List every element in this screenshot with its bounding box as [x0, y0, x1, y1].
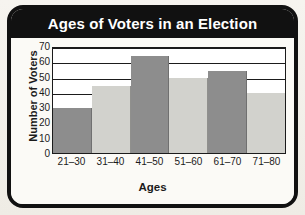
chart-card: Ages of Voters in an Election Number of … [7, 5, 298, 208]
x-axis-tick-label: 31–40 [91, 156, 130, 167]
y-axis-tick-label: 70 [39, 42, 50, 52]
y-axis-tick-label: 30 [39, 103, 50, 113]
bar [247, 93, 285, 153]
x-axis-tick-label: 61–70 [208, 156, 247, 167]
chart-title: Ages of Voters in an Election [48, 15, 257, 32]
y-axis-tick-label: 10 [39, 134, 50, 144]
y-axis-tick-label: 60 [39, 57, 50, 67]
bar-series [53, 48, 285, 153]
x-axis-tick-label: 71–80 [247, 156, 286, 167]
y-axis-tick-label: 0 [44, 149, 50, 159]
plot-area [52, 47, 286, 154]
bar [53, 108, 92, 153]
x-axis-tick-labels: 21–3031–4041–5051–6061–7071–80 [52, 156, 286, 167]
chart-title-band: Ages of Voters in an Election [11, 9, 294, 38]
bar [208, 71, 247, 154]
chart-page: Ages of Voters in an Election Number of … [0, 0, 305, 215]
y-axis-tick-labels: 010203040506070 [31, 47, 50, 154]
y-axis-tick-label: 40 [39, 88, 50, 98]
bar [169, 78, 208, 153]
y-axis-tick-label: 20 [39, 118, 50, 128]
bar [131, 56, 170, 154]
chart-body: Number of Voters 010203040506070 21–3031… [11, 38, 294, 204]
x-axis-tick-label: 41–50 [130, 156, 169, 167]
bar [92, 86, 131, 154]
x-axis-title: Ages [11, 181, 294, 193]
y-axis-tick-label: 50 [39, 73, 50, 83]
x-axis-tick-label: 21–30 [52, 156, 91, 167]
x-axis-tick-label: 51–60 [169, 156, 208, 167]
